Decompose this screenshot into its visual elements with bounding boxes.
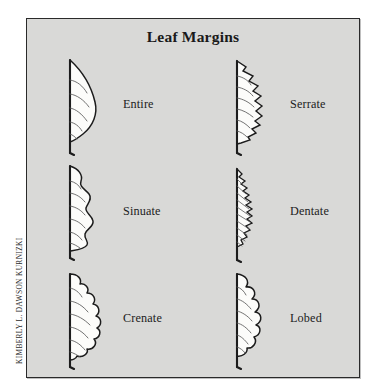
sinuate-leaf-icon [57, 161, 119, 266]
leaf-label-entire: Entire [123, 97, 154, 112]
leaf-figure-serrate: Serrate [194, 53, 361, 160]
entire-leaf-icon [57, 54, 119, 159]
lobed-leaf-icon [224, 268, 286, 373]
leaf-label-dentate: Dentate [290, 204, 329, 219]
leaf-grid: Entire [27, 53, 359, 375]
leaf-margins-plate: Kimberly L. Dawson Kurnizki Leaf Margins [0, 0, 375, 391]
leaf-label-crenate: Crenate [123, 311, 162, 326]
artist-credit: Kimberly L. Dawson Kurnizki [13, 242, 27, 364]
dentate-leaf-icon [224, 161, 286, 266]
leaf-figure-sinuate: Sinuate [27, 160, 194, 267]
crenate-leaf-icon [57, 268, 119, 373]
leaf-label-sinuate: Sinuate [123, 204, 161, 219]
leaf-figure-crenate: Crenate [27, 267, 194, 374]
serrate-leaf-icon [224, 54, 286, 159]
leaf-label-serrate: Serrate [290, 97, 326, 112]
page-title: Leaf Margins [27, 28, 359, 46]
leaf-label-lobed: Lobed [290, 311, 322, 326]
leaf-figure-lobed: Lobed [194, 267, 361, 374]
leaf-figure-entire: Entire [27, 53, 194, 160]
diagram-panel: Leaf Margins [26, 18, 360, 378]
leaf-figure-dentate: Dentate [194, 160, 361, 267]
